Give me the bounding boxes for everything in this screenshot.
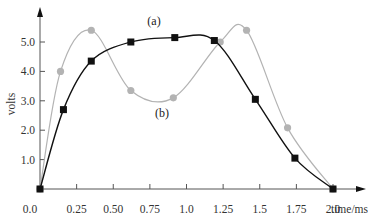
y-ticks: 1.02.03.04.05.0 (21, 36, 45, 166)
square-marker-icon (291, 155, 298, 162)
circle-marker-icon (243, 27, 250, 34)
x-tick-label: 0.25 (67, 203, 87, 215)
x-axis-arrow-icon (356, 186, 366, 192)
x-tick-label: 0.0 (23, 203, 38, 215)
series-b (36, 24, 336, 192)
y-tick-label: 2.0 (21, 124, 36, 136)
square-marker-icon (88, 58, 95, 65)
square-marker-icon (37, 186, 44, 193)
y-axis-title: volts (5, 92, 17, 115)
x-tick-label: 1.75 (286, 203, 306, 215)
x-tick-label: 0.50 (103, 203, 123, 215)
series-line (40, 35, 333, 189)
square-marker-icon (60, 106, 67, 113)
series-b-label: (b) (155, 106, 169, 120)
series-a (37, 34, 337, 192)
circle-marker-icon (170, 94, 177, 101)
x-tick-label: 1.0 (179, 203, 194, 215)
square-marker-icon (252, 96, 259, 103)
series-line (40, 24, 333, 189)
series-a-label: (a) (147, 14, 160, 28)
circle-marker-icon (284, 124, 291, 131)
x-tick-label: 1.5 (253, 203, 268, 215)
square-marker-icon (171, 34, 178, 41)
square-marker-icon (211, 37, 218, 44)
y-tick-label: 5.0 (21, 36, 36, 48)
circle-marker-icon (57, 68, 64, 75)
y-tick-label: 1.0 (21, 154, 36, 166)
x-tick-label: 1.25 (213, 203, 233, 215)
series-layer (36, 24, 336, 192)
circle-marker-icon (88, 27, 95, 34)
y-tick-label: 3.0 (21, 95, 36, 107)
square-marker-icon (127, 39, 134, 46)
square-marker-icon (330, 186, 337, 193)
circle-marker-icon (127, 87, 134, 94)
x-tick-label: 0.75 (140, 203, 160, 215)
chart: 0.00.250.500.751.01.251.51.752.0 1.02.03… (0, 0, 368, 218)
y-axis-arrow-icon (37, 7, 43, 17)
y-tick-label: 4.0 (21, 65, 36, 77)
x-axis-title: time/ms (331, 203, 368, 215)
